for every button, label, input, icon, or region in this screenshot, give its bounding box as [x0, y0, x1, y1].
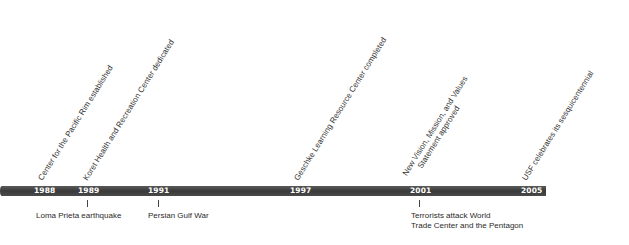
tick-1989 [87, 200, 88, 207]
year-label-2005: 2005 [521, 186, 542, 196]
tick-1991 [158, 200, 159, 207]
year-label-2001: 2001 [410, 186, 431, 196]
timeline: 1988 1989 1991 1997 2001 2005 Center for… [0, 0, 629, 245]
year-label-1988: 1988 [34, 186, 55, 196]
event-above-1988: Center for the Pacific Rim established [36, 64, 115, 182]
event-below-2001: Terrorists attack World Trade Center and… [411, 211, 523, 231]
year-label-1989: 1989 [78, 186, 99, 196]
event-below-1991: Persian Gulf War [148, 211, 209, 221]
event-above-2005: USF celebrates its sesquicentennial [520, 69, 595, 182]
event-above-2001: New Vision, Mission, and Values Statemen… [401, 75, 477, 182]
event-above-1989: Koret Health and Recreation Center dedic… [81, 38, 176, 182]
year-label-1991: 1991 [148, 186, 169, 196]
event-below-1989: Loma Prieta earthquake [36, 211, 121, 221]
year-label-1997: 1997 [290, 186, 311, 196]
tick-2001 [419, 200, 420, 207]
event-above-1997: Geschke Learning Resource Center complet… [292, 36, 388, 182]
